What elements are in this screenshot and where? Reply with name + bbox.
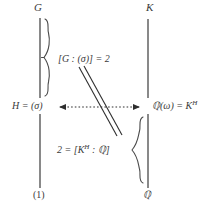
lower-brace [132,117,143,183]
node-label-bottom-right: ℚ [143,190,151,200]
node-label-middle-right-base: ℚ(ω) = K [152,100,192,111]
galois-lattice-diagram: G K H = (σ) ℚ(ω) = KH (1) ℚ [G : (σ)] = … [0,0,202,211]
index-label-bottom-prefix: 2 = [K [57,144,84,155]
node-label-middle-right-exponent: H [192,99,197,107]
index-label-top: [G : (σ)] = 2 [58,54,110,64]
diagonal-line-b [84,66,122,135]
index-label-bottom-suffix: : ℚ] [89,144,109,155]
diagonal-line-a [79,67,117,136]
index-label-bottom: 2 = [KH : ℚ] [57,145,110,155]
node-label-top-left: G [34,2,42,13]
node-label-top-right: K [146,2,153,13]
node-label-bottom-left: (1) [33,190,45,200]
upper-brace [44,19,49,96]
node-label-middle-right: ℚ(ω) = KH [152,101,197,111]
node-label-middle-left: H = (σ) [12,101,43,111]
